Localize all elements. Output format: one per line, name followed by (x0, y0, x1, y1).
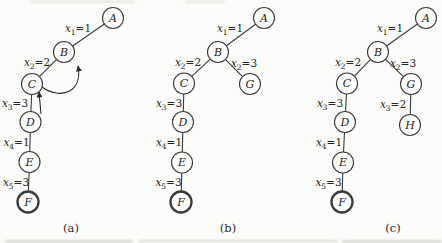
edge-label-B-C: x2=2 (175, 56, 201, 71)
panel-caption-b: (b) (220, 221, 236, 235)
node-label-b-B: B (213, 46, 222, 59)
edge-label-D-E: x4=1 (156, 136, 182, 151)
node-label-b-E: E (177, 156, 186, 169)
edge-label-D-E: x4=1 (3, 136, 29, 151)
tree-edge-D-E (344, 132, 345, 152)
edge-label-B-G: x2=3 (390, 57, 416, 72)
node-label-a-C: C (28, 78, 37, 91)
tree-panel-c: x1=1x2=2x2=3x3=3x3=2x4=1x5=3ABCGDHEF (315, 8, 436, 213)
edge-label-G-H: x3=2 (380, 98, 406, 113)
edge-label-E-F: x5=3 (315, 176, 341, 191)
edge-label-D-E: x4=1 (316, 136, 342, 151)
edge-label-C-D: x3=3 (156, 97, 182, 112)
edge-label-A-B: x1=1 (65, 22, 91, 37)
edge-label-E-F: x5=3 (3, 176, 29, 191)
scan-artifact (30, 0, 135, 3)
node-label-a-F: F (23, 196, 32, 209)
node-label-a-A: A (108, 12, 117, 25)
edge-label-E-F: x5=3 (155, 176, 181, 191)
scan-artifact (5, 240, 133, 243)
scan-artifact (342, 240, 442, 243)
edge-label-A-B: x1=1 (217, 22, 243, 37)
edge-label-B-C: x2=2 (335, 56, 361, 71)
backjump-arrow-c-to-b (42, 66, 79, 93)
node-label-b-A: A (259, 12, 268, 25)
edge-label-A-B: x1=1 (377, 22, 403, 37)
node-label-b-D: D (178, 116, 188, 129)
panel-caption-a: (a) (63, 221, 79, 235)
node-label-c-D: D (340, 116, 350, 129)
figure-search-trees: x1=1x2=2x3=3x4=1x5=3ABCDEFx1=1x2=2x2=3x3… (0, 0, 442, 243)
node-label-a-E: E (24, 156, 33, 169)
tree-edge-C-D (346, 94, 347, 112)
node-label-b-G: G (246, 78, 255, 91)
node-label-c-G: G (407, 78, 416, 91)
node-label-c-B: B (373, 46, 382, 59)
node-label-c-C: C (343, 77, 352, 90)
tree-edge-C-D (31, 94, 32, 111)
tree-panel-a: x1=1x2=2x3=3x4=1x5=3ABCDEF (2, 8, 124, 213)
node-label-b-C: C (180, 77, 189, 90)
node-label-b-F: F (176, 196, 185, 209)
tree-diagram-canvas: x1=1x2=2x3=3x4=1x5=3ABCDEFx1=1x2=2x2=3x3… (0, 0, 442, 243)
node-label-c-A: A (421, 12, 430, 25)
edge-label-C-D: x3=3 (317, 97, 343, 112)
tree-panel-b: x1=1x2=2x2=3x3=3x4=1x5=3ABCGDEF (155, 8, 274, 213)
node-label-a-D: D (25, 116, 35, 129)
backjump-arrow-d-to-c (39, 92, 41, 114)
node-label-c-H: H (404, 119, 415, 132)
scan-artifact (185, 0, 225, 3)
node-label-c-F: F (337, 196, 346, 209)
node-label-a-B: B (59, 46, 68, 59)
panel-caption-c: (c) (385, 221, 400, 235)
scan-artifact (138, 240, 338, 243)
edge-label-B-C: x2=2 (24, 56, 50, 71)
edge-label-C-D: x3=3 (2, 97, 28, 112)
node-label-c-E: E (338, 156, 347, 169)
